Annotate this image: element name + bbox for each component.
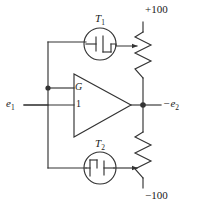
amp-input-wires [24, 88, 74, 105]
arrowhead-icon-t1-wiper [111, 44, 137, 46]
fet-transistor-icon-t2 [84, 152, 116, 184]
label-amp-unity-terminal: 1 [76, 99, 81, 109]
zigzag-resistor-icon-top [135, 32, 151, 78]
label-supply-positive: +100 [145, 4, 168, 15]
label-transistor-t1: T1 [95, 13, 105, 27]
junction-dot-icon-output [140, 102, 146, 108]
label-output-e2: −e2 [163, 98, 179, 112]
label-supply-negative: −100 [145, 190, 168, 201]
junction-dot-icon-feedback [45, 85, 50, 90]
label-amp-gain-terminal: G [75, 82, 82, 92]
triangle-amplifier-icon [74, 74, 131, 137]
label-transistor-t2: T2 [95, 138, 105, 152]
label-input-e1: e1 [6, 98, 15, 112]
zigzag-resistor-icon-bottom [135, 132, 151, 178]
circuit-diagram: T1 T2 +100 −100 e1 −e2 G 1 [0, 0, 197, 210]
